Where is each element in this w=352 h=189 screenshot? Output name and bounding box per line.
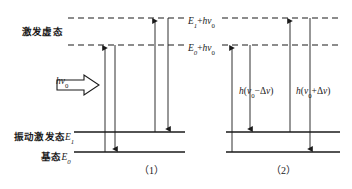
label-vibrational-excited-state: 振动激发态E1 — [14, 127, 74, 146]
stokes-close-paren: ) — [270, 86, 273, 96]
label-level-E0-plus-hv0: E0+hν0 — [188, 38, 215, 57]
antistokes-close-paren: ) — [327, 86, 330, 96]
level-E0-nu-subscript: 0 — [212, 49, 215, 56]
level-E1-nu-subscript: 0 — [212, 22, 215, 29]
label-incident-photon-energy: hν0 — [56, 71, 68, 90]
caption-panel-1: （1） — [139, 166, 164, 176]
label-vib-state-text: 振动激发态 — [14, 131, 65, 142]
label-ground-state: 基态E0 — [41, 147, 71, 166]
label-stokes-emission-energy: h(ν0−Δν) — [239, 81, 273, 100]
label-vib-state-subscript: 1 — [71, 138, 74, 145]
label-ground-state-text: 基态 — [41, 151, 61, 162]
raman-energy-level-diagram: 激发虚态 振动激发态E1 基态E0 hν0 E1+hν0 E0+hν0 h(ν0… — [0, 0, 352, 189]
label-ground-state-subscript: 0 — [67, 158, 70, 165]
label-virtual-state: 激发虚态 — [22, 27, 63, 37]
label-level-E1-plus-hv0: E1+hν0 — [188, 11, 215, 30]
incident-nu-subscript: 0 — [65, 82, 68, 89]
caption-panel-2: （2） — [271, 166, 296, 176]
label-antistokes-emission-energy: h(ν0+Δν) — [296, 81, 330, 100]
